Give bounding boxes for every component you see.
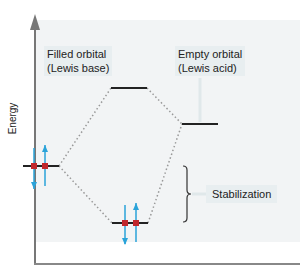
empty-orbital-label-line2: (Lewis acid): [178, 61, 242, 75]
electron-dot-icon: [133, 220, 139, 226]
correlation-lines: [59, 88, 182, 223]
stabilization-label: Stabilization: [206, 185, 277, 203]
spin-down-arrow-icon: [122, 238, 128, 245]
electron-dot-icon: [122, 220, 128, 226]
spin-up-arrow-icon: [133, 203, 139, 210]
y-axis-arrow-icon: [30, 14, 40, 30]
spin-down-arrow-icon: [31, 182, 37, 189]
spin-up-arrow-icon: [42, 145, 48, 152]
energy-diagram: [0, 0, 307, 278]
filled-orbital-label-line1: Filled orbital: [47, 47, 109, 61]
empty-orbital-label-line1: Empty orbital: [178, 47, 242, 61]
filled-orbital-label-line2: (Lewis base): [47, 61, 109, 75]
stabilization-brace-icon: [183, 166, 191, 222]
electron-dot-icon: [31, 163, 37, 169]
filled-orbital-label: Filled orbital (Lewis base): [44, 46, 112, 76]
y-axis-label: Energy: [7, 95, 18, 143]
electron-dot-icon: [42, 163, 48, 169]
empty-orbital-label: Empty orbital (Lewis acid): [175, 46, 245, 76]
